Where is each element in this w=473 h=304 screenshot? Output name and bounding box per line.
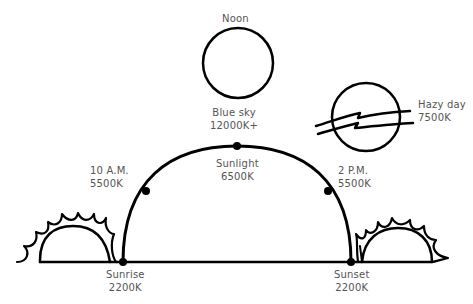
sunset-value: 2200K xyxy=(334,281,370,294)
afternoon-point xyxy=(324,187,332,195)
hazy-value: 7500K xyxy=(418,111,466,124)
diagram-drawing xyxy=(0,0,473,304)
blue-sky-label: Blue sky 12000K+ xyxy=(210,106,258,132)
noon-label-text: Noon xyxy=(222,12,249,25)
sunset-label-text: Sunset xyxy=(334,268,370,281)
sunrise-label: Sunrise 2200K xyxy=(106,268,145,294)
sunset-point xyxy=(347,258,355,266)
hazy-label: Hazy day 7500K xyxy=(418,98,466,124)
sunrise-point xyxy=(119,258,127,266)
morning-point xyxy=(142,187,150,195)
hazy-label-text: Hazy day xyxy=(418,98,466,111)
morning-label-text: 10 A.M. xyxy=(90,164,129,177)
sunset-label: Sunset 2200K xyxy=(334,268,370,294)
noon-sun-icon xyxy=(203,28,273,98)
sunrise-sun-icon xyxy=(17,213,116,262)
afternoon-label-text: 2 P.M. xyxy=(338,164,371,177)
sunlight-point xyxy=(233,142,241,150)
morning-label: 10 A.M. 5500K xyxy=(90,164,129,190)
hazy-sun-icon xyxy=(316,83,413,151)
afternoon-label: 2 P.M. 5500K xyxy=(338,164,371,190)
blue-sky-value: 12000K+ xyxy=(210,119,258,132)
afternoon-value: 5500K xyxy=(338,177,371,190)
daylight-color-temperature-diagram: Noon Blue sky 12000K+ Sunlight 6500K 10 … xyxy=(0,0,473,304)
blue-sky-label-text: Blue sky xyxy=(210,106,258,119)
sunlight-value: 6500K xyxy=(216,170,259,183)
sunrise-value: 2200K xyxy=(106,281,145,294)
sunlight-label-text: Sunlight xyxy=(216,157,259,170)
sunrise-label-text: Sunrise xyxy=(106,268,145,281)
morning-value: 5500K xyxy=(90,177,129,190)
sunlight-label: Sunlight 6500K xyxy=(216,157,259,183)
sunset-sun-icon xyxy=(356,218,448,262)
noon-label: Noon xyxy=(222,12,249,25)
